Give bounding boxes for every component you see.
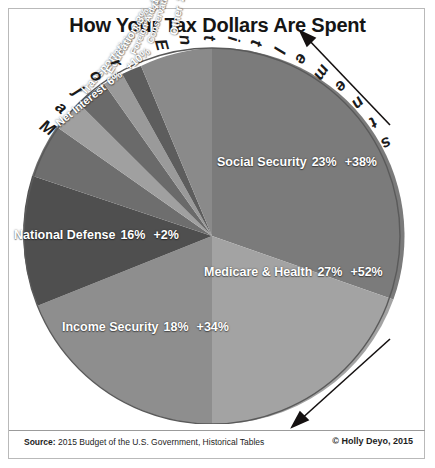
label-social-security-change: +38% — [345, 155, 377, 169]
label-income-security-change: +34% — [197, 320, 229, 334]
label-medicare-health-change: +52% — [350, 265, 382, 279]
source-label: Source: — [24, 437, 56, 447]
label-national-defense-change: +2% — [153, 228, 178, 242]
arrow-top-shaft — [306, 37, 390, 125]
label-social-security: Social Security23%+38% — [217, 155, 377, 169]
copyright-note: © Holly Deyo, 2015 — [332, 436, 413, 446]
label-medicare-health: Medicare & Health27%+52% — [204, 265, 383, 279]
label-income-security-pct: 18% — [164, 320, 189, 334]
annotation-arrows — [9, 9, 424, 424]
label-medicare-health-pct: 27% — [317, 265, 342, 279]
chart-footer: Source: 2015 Budget of the U.S. Governme… — [0, 434, 435, 459]
label-medicare-health-name: Medicare & Health — [204, 265, 312, 279]
label-national-defense-name: National Defense — [14, 228, 115, 242]
label-national-defense-pct: 16% — [120, 228, 145, 242]
label-income-security-name: Income Security — [62, 320, 159, 334]
arrow-bottom-shaft — [299, 339, 390, 421]
label-other-pct: 2% — [174, 0, 189, 2]
source-text: 2015 Budget of the U.S. Government, Hist… — [58, 437, 264, 447]
label-social-security-name: Social Security — [217, 155, 307, 169]
label-income-security: Income Security18%+34% — [62, 320, 229, 334]
footer-divider — [9, 430, 425, 431]
source-note: Source: 2015 Budget of the U.S. Governme… — [24, 437, 264, 447]
chart-page: How Your Tax Dollars Are Spent — [0, 0, 435, 468]
label-social-security-pct: 23% — [312, 155, 337, 169]
label-national-defense: National Defense16%+2% — [14, 228, 179, 242]
pie-chart: Social Security23%+38% Medicare & Health… — [9, 9, 424, 424]
